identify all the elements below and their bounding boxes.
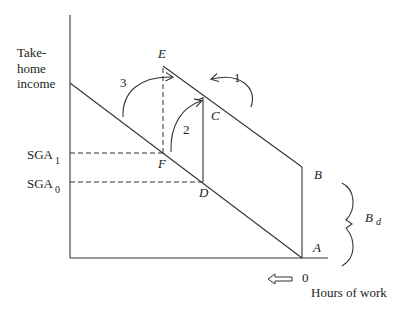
point-D-label: D	[198, 185, 209, 200]
arrow-1-number: 1	[234, 70, 241, 85]
x-axis-label: Hours of work	[311, 285, 387, 300]
arrow-3	[123, 77, 172, 117]
point-B-label: B	[314, 167, 322, 182]
budget-line-upper	[163, 66, 302, 167]
point-F-label: F	[157, 156, 167, 171]
left-arrow-icon	[268, 274, 292, 284]
y-axis-label-line3: income	[17, 76, 55, 91]
labor-supply-diagram: Take- home income E C F D B A 3 2 1 SGA1…	[0, 0, 402, 310]
arrow-1	[212, 77, 253, 107]
arrow-2-number: 2	[183, 122, 190, 137]
sga0-label: SGA0	[27, 176, 60, 195]
benefit-brace	[342, 183, 353, 266]
point-E-label: E	[157, 46, 166, 61]
benefit-label: Bd	[365, 210, 382, 227]
point-C-label: C	[211, 108, 220, 123]
y-axis-label-line2: home	[17, 61, 46, 76]
tick-mark-C	[197, 98, 203, 100]
y-axis-label-line1: Take-	[17, 45, 46, 60]
arrow-3-number: 3	[120, 75, 127, 90]
sga1-label: SGA1	[27, 147, 60, 166]
point-A-label: A	[312, 240, 321, 255]
origin-label: 0	[302, 270, 309, 285]
